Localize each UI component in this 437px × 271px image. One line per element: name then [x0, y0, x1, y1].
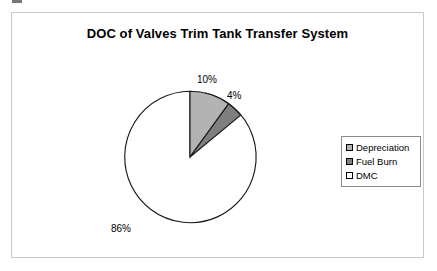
legend-swatch-dmc [346, 172, 353, 179]
legend-swatch-fuel-burn [346, 158, 353, 165]
data-label-fuel-burn: 4% [227, 90, 241, 101]
chart-frame: DOC of Valves Trim Tank Transfer System … [11, 12, 424, 258]
pie-svg [114, 81, 266, 233]
pie-chart [114, 81, 266, 233]
data-label-depreciation: 10% [197, 74, 217, 85]
legend-label-dmc: DMC [356, 171, 378, 181]
legend-swatch-depreciation [346, 144, 353, 151]
scan-artifact [12, 0, 22, 3]
legend-label-fuel-burn: Fuel Burn [356, 157, 397, 167]
legend-item-depreciation[interactable]: Depreciation [346, 141, 416, 154]
chart-title: DOC of Valves Trim Tank Transfer System [12, 26, 423, 41]
legend-item-dmc[interactable]: DMC [346, 169, 416, 182]
chart-legend: Depreciation Fuel Burn DMC [341, 136, 421, 187]
legend-item-fuel-burn[interactable]: Fuel Burn [346, 155, 416, 168]
data-label-dmc: 86% [111, 223, 131, 234]
legend-label-depreciation: Depreciation [356, 143, 409, 153]
